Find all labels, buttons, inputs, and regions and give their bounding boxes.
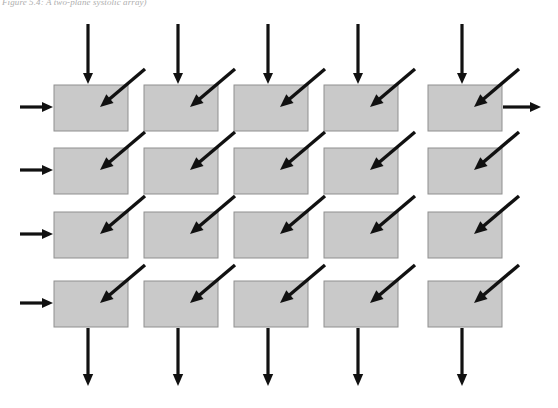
left-input-arrow-head — [42, 229, 53, 239]
left-input-arrow-head — [42, 165, 53, 175]
bottom-output-arrow-head — [353, 374, 363, 386]
right-output-arrow-head — [530, 102, 541, 112]
left-input-arrow-head — [42, 102, 53, 112]
left-input-arrow-head — [42, 298, 53, 308]
diagram-svg — [0, 0, 558, 408]
right-output-layer — [503, 102, 541, 112]
top-input-arrow-head — [173, 73, 183, 84]
left-input-layer — [20, 102, 53, 308]
top-input-arrow-head — [263, 73, 273, 84]
top-input-arrow-head — [83, 73, 93, 84]
bottom-output-arrow-head — [457, 374, 467, 386]
bottom-output-layer — [83, 328, 467, 386]
top-input-arrow-head — [353, 73, 363, 84]
bottom-output-arrow-head — [263, 374, 273, 386]
top-input-arrow-head — [457, 73, 467, 84]
systolic-array-diagram — [0, 0, 558, 408]
bottom-output-arrow-head — [173, 374, 183, 386]
cell-layer — [54, 85, 502, 327]
bottom-output-arrow-head — [83, 374, 93, 386]
